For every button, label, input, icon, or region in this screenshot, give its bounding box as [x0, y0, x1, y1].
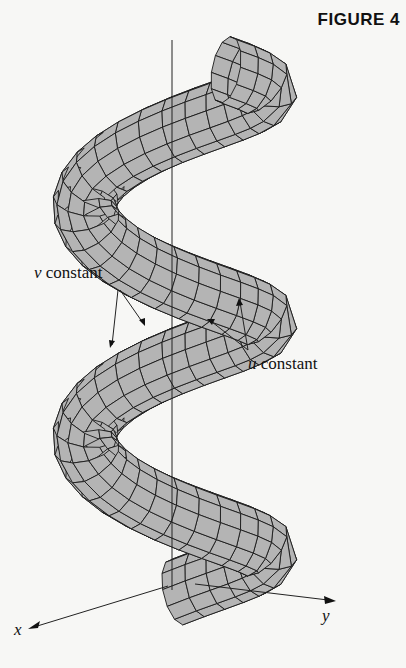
- figure-title: FIGURE 4: [318, 10, 400, 30]
- x-axis-label: x: [14, 620, 22, 640]
- v-variable: v: [34, 263, 42, 282]
- v-pointer-arrowhead-1: [109, 340, 115, 348]
- v-constant-text: constant: [42, 263, 103, 282]
- u-constant-text: constant: [257, 354, 318, 373]
- v-constant-label: v constant: [34, 263, 102, 283]
- x-axis: [34, 586, 168, 627]
- u-constant-label: u constant: [248, 354, 317, 374]
- y-axis-label: y: [322, 606, 330, 626]
- helical-tube-surface: [53, 37, 296, 625]
- helical-tube-diagram: [0, 0, 406, 668]
- y-axis-arrowhead: [324, 596, 336, 604]
- x-axis-arrowhead: [28, 621, 40, 629]
- figure-container: FIGURE 4 v constant u constant x y: [0, 0, 406, 668]
- u-variable: u: [248, 354, 257, 373]
